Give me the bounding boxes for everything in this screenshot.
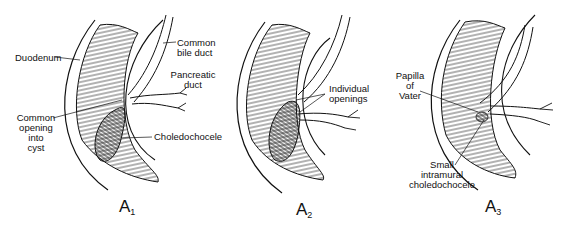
label-duodenum: Duodenum	[15, 53, 61, 63]
label-common-bile-duct-line2: bile duct	[177, 48, 212, 58]
label-papilla-line3: Vater	[390, 91, 430, 101]
label-choledochocele: Choledochocele	[154, 132, 222, 142]
panel-a2-drawing	[237, 15, 360, 193]
panel-label-a1: A1	[119, 197, 135, 217]
label-pancreatic-duct-line2: duct	[166, 80, 220, 90]
panel-label-a3: A3	[485, 197, 501, 217]
label-small-intramural-line3: choledochocele	[407, 180, 477, 190]
panel-a1-drawing	[53, 15, 187, 190]
label-individual-openings-line2: openings	[329, 94, 368, 104]
panel-label-a2: A2	[296, 200, 312, 220]
label-common-opening-line4: cyst	[16, 143, 56, 153]
